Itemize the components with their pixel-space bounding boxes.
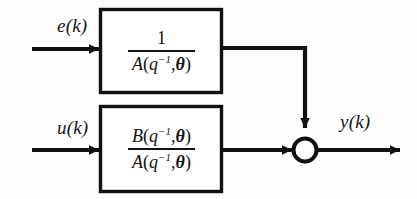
noise-path-line <box>222 48 305 128</box>
control-input-label: u(k) <box>57 117 88 139</box>
rparen-glyph: ) <box>185 152 191 172</box>
plant-block-denominator: A(q−1,θ) <box>129 152 194 172</box>
rparen-glyph: ) <box>185 126 191 146</box>
theta-symbol: θ <box>176 54 185 74</box>
summing-junction <box>294 139 317 162</box>
q-symbol: q <box>149 54 158 74</box>
plant-block-expression: B(q−1,θ) A(q−1,θ) <box>128 117 195 181</box>
theta-symbol: θ <box>176 126 185 146</box>
q-symbol: q <box>149 126 158 146</box>
rparen-glyph: ) <box>185 54 191 74</box>
output-label: y(k) <box>340 111 370 133</box>
noise-block-denominator: A(q−1,θ) <box>129 54 194 74</box>
exponent-minus-one: −1 <box>158 125 171 137</box>
q-symbol: q <box>149 152 158 172</box>
denominator-A-symbol: A <box>132 54 143 74</box>
block-diagram: e(k) u(k) y(k) 1 A(q−1,θ) B(q−1,θ) A(q−1… <box>0 0 417 199</box>
numerator-B-symbol: B <box>132 126 143 146</box>
theta-symbol: θ <box>176 152 185 172</box>
denominator-A-symbol: A <box>132 152 143 172</box>
exponent-minus-one: −1 <box>158 151 171 163</box>
noise-block-fraction-bar <box>128 50 195 52</box>
noise-block-expression: 1 A(q−1,θ) <box>128 20 195 82</box>
noise-input-label: e(k) <box>57 15 87 37</box>
exponent-minus-one: −1 <box>158 53 171 65</box>
noise-block-numerator: 1 <box>154 28 169 48</box>
plant-block-fraction-bar <box>128 148 195 150</box>
plant-block-numerator: B(q−1,θ) <box>129 126 194 146</box>
